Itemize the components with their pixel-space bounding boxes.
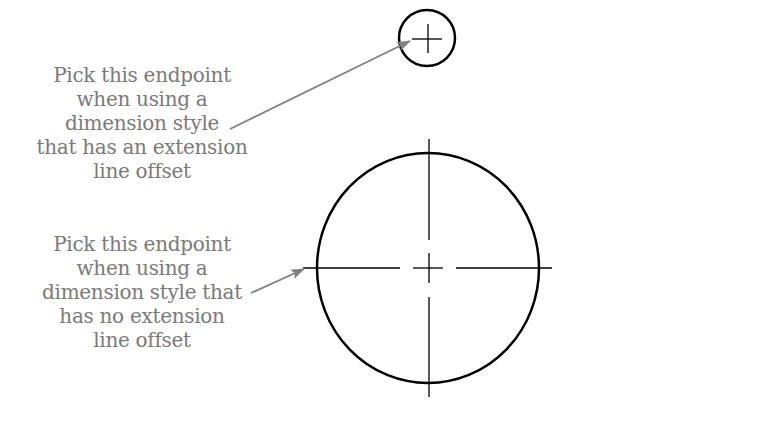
callout-1-line-1: Pick this endpoint [12,63,272,87]
callout-1-line-5: line offset [12,159,272,183]
callout-2-line-2: when using a [12,256,272,280]
callout-no-offset: Pick this endpoint when using a dimensio… [12,232,272,352]
callout-1-line-2: when using a [12,87,272,111]
large-circle [303,139,552,397]
callout-with-offset: Pick this endpoint when using a dimensio… [12,63,272,183]
callout-1-line-3: dimension style [12,111,272,135]
callout-2-line-3: dimension style that [12,280,272,304]
small-circle [399,10,455,66]
callout-2-line-1: Pick this endpoint [12,232,272,256]
callout-2-line-5: line offset [12,328,272,352]
diagram-canvas: Pick this endpoint when using a dimensio… [0,0,762,421]
callout-2-line-4: has no extension [12,304,272,328]
callout-1-line-4: that has an extension [12,135,272,159]
